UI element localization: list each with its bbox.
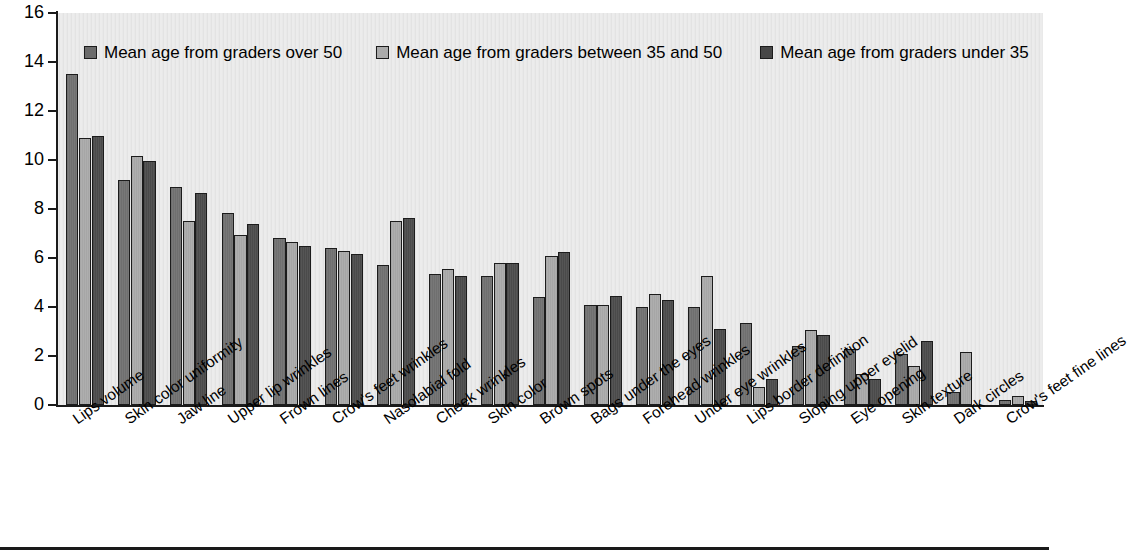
y-tick-label: 10 <box>4 150 44 168</box>
bar-group <box>170 13 208 405</box>
legend-swatch-icon <box>84 46 97 59</box>
bar[interactable] <box>143 161 155 405</box>
y-tick-mark <box>48 12 57 14</box>
bar[interactable] <box>92 136 104 406</box>
bar-group <box>636 13 674 405</box>
y-tick-label: 2 <box>4 346 44 364</box>
chart-legend: Mean age from graders over 50 Mean age f… <box>84 44 1029 61</box>
bar[interactable] <box>222 213 234 405</box>
bar[interactable] <box>455 276 467 405</box>
bar-group <box>66 13 104 405</box>
y-tick-label: 4 <box>4 297 44 315</box>
legend-label: Mean age from graders between 35 and 50 <box>396 44 722 61</box>
bar-group <box>481 13 519 405</box>
bar-group <box>533 13 571 405</box>
bar-group <box>999 13 1037 405</box>
y-tick-label: 16 <box>4 3 44 21</box>
legend-item-between-35-and-50: Mean age from graders between 35 and 50 <box>376 44 722 61</box>
legend-item-over-50: Mean age from graders over 50 <box>84 44 342 61</box>
y-tick-mark <box>48 208 57 210</box>
bar[interactable] <box>299 246 311 405</box>
y-tick-mark <box>48 61 57 63</box>
bar[interactable] <box>545 256 557 405</box>
legend-label: Mean age from graders under 35 <box>780 44 1029 61</box>
y-tick-mark <box>48 257 57 259</box>
bar-group <box>325 13 363 405</box>
bar-group <box>273 13 311 405</box>
bar-group <box>118 13 156 405</box>
legend-swatch-icon <box>376 46 389 59</box>
bar-group <box>377 13 415 405</box>
bar-group <box>584 13 622 405</box>
y-tick-mark <box>48 306 57 308</box>
legend-item-under-35: Mean age from graders under 35 <box>760 44 1029 61</box>
legend-swatch-icon <box>760 46 773 59</box>
y-tick-mark <box>48 159 57 161</box>
bar[interactable] <box>351 254 363 405</box>
bar[interactable] <box>999 400 1011 405</box>
bar[interactable] <box>506 263 518 405</box>
y-tick-label: 12 <box>4 101 44 119</box>
bar[interactable] <box>247 224 259 405</box>
y-tick-label: 8 <box>4 199 44 217</box>
y-tick-mark <box>48 355 57 357</box>
bar[interactable] <box>234 235 246 405</box>
bar[interactable] <box>558 252 570 405</box>
bar[interactable] <box>66 74 78 405</box>
y-tick-mark <box>48 110 57 112</box>
bar-group <box>947 13 985 405</box>
y-tick-label: 6 <box>4 248 44 266</box>
y-tick-mark <box>48 404 57 406</box>
y-tick-label: 14 <box>4 52 44 70</box>
y-tick-label: 0 <box>4 395 44 413</box>
legend-label: Mean age from graders over 50 <box>104 44 342 61</box>
bar[interactable] <box>79 138 91 405</box>
